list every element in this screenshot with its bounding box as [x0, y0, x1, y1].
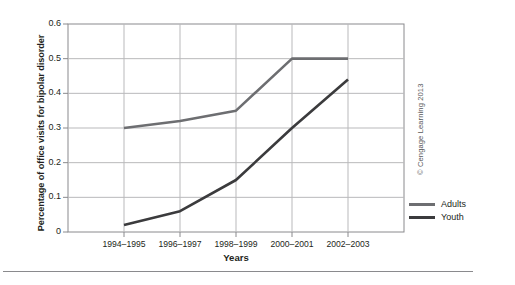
y-tick-label: 0.5 [35, 53, 61, 63]
y-tick-label: 0.4 [35, 87, 61, 97]
copyright-credit: © Cengage Learning 2013 [416, 15, 425, 175]
x-axis-title: Years [68, 252, 404, 263]
bottom-divider-rule [3, 271, 473, 272]
y-tick-label: 0.1 [35, 191, 61, 201]
legend-label-youth: Youth [441, 213, 464, 222]
x-tick-label: 2002–2003 [313, 239, 383, 249]
y-tick-label: 0.6 [35, 18, 61, 28]
legend-label-adults: Adults [441, 200, 466, 209]
x-axis-tick-marks [124, 232, 348, 237]
legend-swatch-adults [409, 203, 435, 206]
legend-item-adults: Adults [409, 198, 479, 211]
y-tick-label: 0.2 [35, 157, 61, 167]
y-axis-tick-marks [63, 24, 68, 232]
chart-legend: Adults Youth [409, 198, 479, 224]
figure-container: Percentage of office visits for bipolar … [0, 0, 515, 285]
y-tick-label: 0 [35, 226, 61, 236]
legend-swatch-youth [409, 216, 435, 219]
y-tick-label: 0.3 [35, 122, 61, 132]
legend-item-youth: Youth [409, 211, 479, 224]
